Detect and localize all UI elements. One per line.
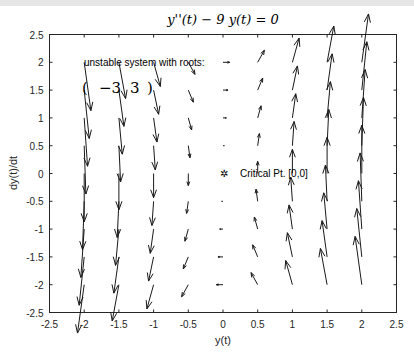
quiver-arrow xyxy=(220,229,223,230)
y-tick-label: -1 xyxy=(35,224,44,235)
x-tick-label: 0.5 xyxy=(251,319,265,330)
y-axis-label: dy(t)/dt xyxy=(7,156,19,190)
x-axis-label: y(t) xyxy=(215,334,231,346)
y-tick-label: 0.5 xyxy=(30,141,44,152)
critical-point-marker: ✲ xyxy=(220,168,228,179)
y-tick-label: 0 xyxy=(38,169,44,180)
y-tick-label: 2.5 xyxy=(30,30,44,41)
quiver-arrow xyxy=(223,117,226,118)
y-tick-labels: 2.521.510.50-0.5-1-1.5-2-2.5 xyxy=(26,30,44,319)
x-tick-label: 1.5 xyxy=(320,319,334,330)
y-tick-label: 2 xyxy=(38,57,44,68)
y-tick-label: -2.5 xyxy=(26,308,44,319)
y-tick-label: -2 xyxy=(35,280,44,291)
quiver-arrow xyxy=(218,256,223,257)
roots-open-paren: ( xyxy=(82,79,88,97)
x-tick-label: 0 xyxy=(220,319,226,330)
critical-point-label: Critical Pt. [0,0] xyxy=(240,168,308,179)
quiver-arrow xyxy=(223,89,228,90)
x-tick-label: 2 xyxy=(359,319,365,330)
x-tick-labels: -2.5-2-1.5-1-0.500.511.522.5 xyxy=(41,319,404,330)
x-tick-label: 1 xyxy=(290,319,296,330)
phase-plane-chart: -2.5-2-1.5-1-0.500.511.522.5 2.521.510.5… xyxy=(0,0,414,355)
roots-close-paren: ) xyxy=(147,79,153,97)
x-tick-label: 2.5 xyxy=(390,319,404,330)
y-tick-label: -1.5 xyxy=(26,252,44,263)
system-annotation: unstable system with roots: xyxy=(84,57,205,68)
root-1: −3 xyxy=(99,79,121,97)
y-tick-label: 1.5 xyxy=(30,85,44,96)
y-tick-label: 1 xyxy=(38,113,44,124)
root-2: 3 xyxy=(130,79,140,97)
x-tick-label: -2.5 xyxy=(41,319,59,330)
y-tick-label: -0.5 xyxy=(26,196,44,207)
chart-title: y''(t) − 9 y(t) = 0 xyxy=(166,12,279,27)
x-tick-label: -1 xyxy=(149,319,158,330)
x-tick-label: -2 xyxy=(80,319,89,330)
x-tick-label: -0.5 xyxy=(180,319,198,330)
